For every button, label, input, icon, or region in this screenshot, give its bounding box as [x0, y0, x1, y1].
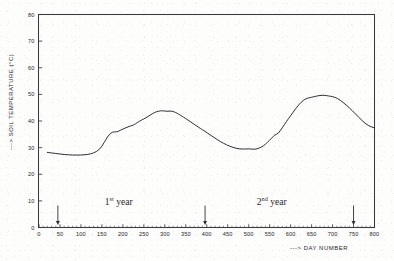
plot-frame — [39, 15, 375, 228]
y-tick-label-40: 40 — [28, 118, 35, 124]
x-axis-title: ---> DAY NUMBER — [290, 245, 348, 251]
y-axis: 01020304050607080 — [28, 12, 42, 231]
x-tick-label-200: 200 — [118, 231, 128, 237]
x-tick-label-750: 750 — [349, 231, 359, 237]
x-tick-label-350: 350 — [181, 231, 191, 237]
chart-canvas: 01020304050607080 0501001502002503003504… — [0, 0, 394, 261]
x-tick-label-100: 100 — [76, 231, 86, 237]
year-annotation-1: 1styear — [105, 195, 134, 207]
y-tick-label-80: 80 — [28, 12, 35, 18]
x-tick-label-650: 650 — [307, 231, 317, 237]
year-annotation-2: 2ndyear — [257, 195, 288, 207]
x-tick-label-250: 250 — [139, 231, 149, 237]
x-tick-label-700: 700 — [328, 231, 338, 237]
x-tick-label-400: 400 — [202, 231, 212, 237]
x-tick-label-800: 800 — [370, 231, 380, 237]
arrow-markers — [56, 206, 356, 225]
y-tick-label-50: 50 — [28, 91, 35, 97]
x-tick-label-600: 600 — [286, 231, 296, 237]
y-tick-label-0: 0 — [31, 225, 34, 231]
x-tick-label-500: 500 — [244, 231, 254, 237]
x-tick-label-150: 150 — [97, 231, 107, 237]
year-annotations: 1styear2ndyear — [105, 195, 288, 207]
y-tick-label-30: 30 — [28, 145, 35, 151]
y-axis-title: ---> SOIL TEMPERATURE (°C) — [8, 54, 14, 150]
soil-temperature-curve — [47, 95, 374, 155]
y-tick-label-60: 60 — [28, 65, 35, 71]
y-tick-label-20: 20 — [28, 171, 35, 177]
x-tick-label-450: 450 — [223, 231, 233, 237]
x-tick-label-550: 550 — [265, 231, 275, 237]
arrow-marker-1-head — [56, 221, 60, 225]
x-tick-label-300: 300 — [160, 231, 170, 237]
x-tick-label-0: 0 — [37, 231, 40, 237]
x-tick-label-50: 50 — [57, 231, 64, 237]
arrow-marker-3-head — [352, 221, 356, 225]
y-tick-label-70: 70 — [28, 38, 35, 44]
soil-temperature-chart-figure: 01020304050607080 0501001502002503003504… — [0, 0, 394, 261]
y-tick-label-10: 10 — [28, 198, 35, 204]
